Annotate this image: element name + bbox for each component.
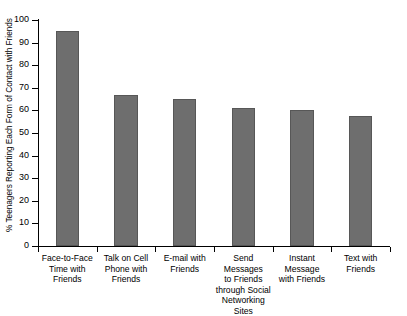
y-axis-tick-label: 10 [19, 217, 29, 228]
y-axis-tick: 20 [32, 201, 38, 202]
x-axis-category-label: Text with Friends [331, 253, 390, 274]
y-axis-tick-label: 40 [19, 150, 29, 161]
y-axis-tick: 100 [32, 20, 38, 21]
x-axis-category-label: Send Messages to Friends through Social … [214, 253, 273, 316]
y-axis-title: % Teenagers Reporting Each Form of Conta… [0, 0, 18, 250]
y-axis-tick-label: 60 [19, 104, 29, 115]
y-axis-tick-label: 30 [19, 172, 29, 183]
bar [349, 116, 372, 246]
x-axis-tick [38, 247, 39, 252]
x-axis-tick [331, 247, 332, 252]
y-axis-tick-label: 100 [14, 14, 29, 25]
plot-area [38, 20, 390, 246]
bar [232, 108, 255, 246]
bar [290, 110, 313, 246]
bar [56, 31, 79, 246]
y-axis-tick-label: 0 [24, 240, 29, 251]
y-axis-tick: 60 [32, 110, 38, 111]
bar [114, 95, 137, 246]
y-axis-tick-label: 90 [19, 37, 29, 48]
y-axis-tick: 50 [32, 133, 38, 134]
x-axis-tick [97, 247, 98, 252]
y-axis-tick: 70 [32, 88, 38, 89]
y-axis-tick-label: 20 [19, 195, 29, 206]
x-axis-tick [273, 247, 274, 252]
y-axis-tick-label: 80 [19, 59, 29, 70]
y-axis-tick-label: 50 [19, 127, 29, 138]
x-axis-tick [214, 247, 215, 252]
y-axis-tick: 10 [32, 223, 38, 224]
x-axis-category-label: Instant Message with Friends [273, 253, 332, 285]
x-axis-tick [155, 247, 156, 252]
x-axis-tick [390, 247, 391, 252]
y-axis-tick-label: 70 [19, 82, 29, 93]
x-axis-category-label: E-mail with Friends [155, 253, 214, 274]
y-axis-tick: 80 [32, 65, 38, 66]
y-axis-tick: 40 [32, 156, 38, 157]
y-axis-tick: 30 [32, 178, 38, 179]
category-label-group: Face-to-Face Time with FriendsTalk on Ce… [38, 253, 390, 311]
x-axis-category-label: Face-to-Face Time with Friends [38, 253, 97, 285]
y-axis-tick: 90 [32, 43, 38, 44]
x-axis-category-label: Talk on Cell Phone with Friends [97, 253, 156, 285]
y-axis-title-text: % Teenagers Reporting Each Form of Conta… [4, 18, 14, 232]
bar [173, 99, 196, 246]
